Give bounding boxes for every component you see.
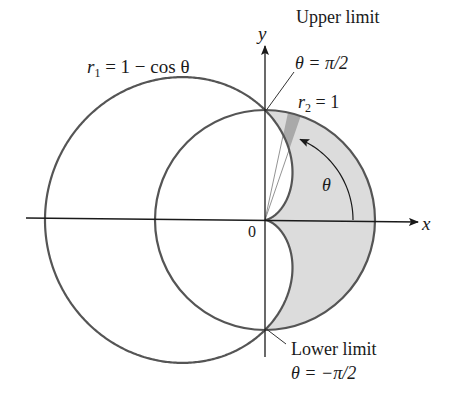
cardioid-label: r1 = 1 − cos θ: [87, 56, 190, 80]
y-axis-label: y: [256, 23, 267, 44]
upper-limit-value: θ = π/2: [295, 53, 348, 73]
upper-limit-title: Upper limit: [296, 7, 380, 27]
polar-diagram: r1 = 1 − cos θ Upper limit θ = π/2 r2 = …: [0, 0, 452, 403]
theta-label: θ: [322, 175, 331, 195]
circle-label: r2 = 1: [298, 92, 339, 115]
upper-limit-leader: [265, 72, 294, 112]
lower-limit-value: θ = −π/2: [291, 363, 356, 383]
x-axis-label: x: [421, 213, 431, 234]
origin-label: 0: [248, 223, 256, 240]
lower-limit-title: Lower limit: [291, 339, 376, 359]
